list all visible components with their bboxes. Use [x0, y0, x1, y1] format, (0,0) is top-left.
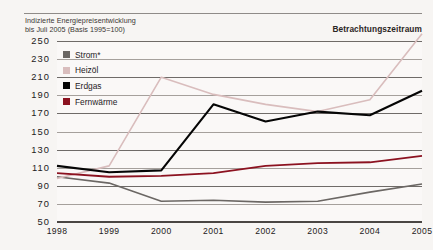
y-tick-130: 130	[31, 145, 50, 155]
legend-item-erdgas[interactable]: Erdgas	[63, 78, 117, 94]
y-tick-150: 150	[31, 127, 50, 137]
period-label: Betrachtungszeitraum	[332, 24, 422, 34]
legend-swatch-icon-heizoel	[63, 67, 70, 74]
x-tick-2001: 2001	[203, 226, 224, 236]
chart-title-line2: bis Juli 2005 (Basis 1995=100)	[25, 26, 255, 35]
legend-item-fernwaerme[interactable]: Fernwärme	[63, 94, 117, 110]
header-divider	[24, 13, 422, 14]
y-axis-labels: 507090110130150170190210230250	[0, 41, 54, 222]
legend-swatch-icon-erdgas	[63, 82, 70, 89]
y-tick-190: 190	[31, 90, 50, 100]
legend-item-strom[interactable]: Strom*	[63, 47, 117, 63]
x-tick-2003: 2003	[307, 226, 328, 236]
legend-swatch-icon-strom	[63, 51, 70, 58]
x-axis-line	[57, 221, 422, 223]
chart-screenshot: Indizierte Energiepreisentwicklung bis J…	[0, 0, 433, 250]
x-tick-2004: 2004	[359, 226, 380, 236]
series-line-strom	[57, 177, 422, 202]
x-tick-2002: 2002	[255, 226, 276, 236]
y-tick-90: 90	[37, 181, 50, 191]
legend-label-strom: Strom*	[75, 50, 101, 60]
legend-item-heizoel[interactable]: Heizöl	[63, 63, 117, 79]
y-tick-250: 250	[31, 36, 50, 46]
legend-label-fernwaerme: Fernwärme	[75, 97, 117, 107]
x-tick-1998: 1998	[47, 226, 68, 236]
x-tick-1999: 1999	[99, 226, 120, 236]
x-axis-labels: 19981999200020012002200320042005	[57, 226, 422, 242]
series-line-fernwrme	[57, 156, 422, 177]
y-tick-170: 170	[31, 108, 50, 118]
x-tick-2005: 2005	[412, 226, 433, 236]
y-tick-210: 210	[31, 72, 50, 82]
y-tick-230: 230	[31, 54, 50, 64]
y-tick-70: 70	[37, 199, 50, 209]
chart-title: Indizierte Energiepreisentwicklung bis J…	[25, 17, 255, 34]
chart-legend: Strom*HeizölErdgasFernwärme	[63, 47, 117, 109]
legend-label-heizoel: Heizöl	[75, 65, 98, 75]
y-tick-110: 110	[32, 163, 50, 173]
legend-label-erdgas: Erdgas	[75, 81, 102, 91]
x-tick-2000: 2000	[151, 226, 172, 236]
legend-swatch-icon-fernwaerme	[63, 98, 70, 105]
